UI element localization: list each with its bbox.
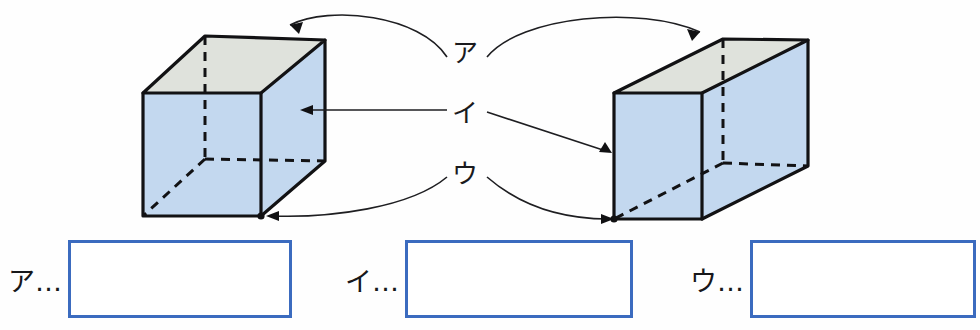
- figure-svg: [0, 0, 980, 240]
- answer-label-a: ア…: [8, 268, 65, 295]
- answer-box-i[interactable]: [405, 240, 633, 318]
- left-cube: [143, 36, 325, 220]
- answer-box-u[interactable]: [750, 240, 976, 318]
- callout-u-arrowhead-left: [266, 211, 279, 221]
- answer-row: ア… イ… ウ…: [0, 236, 980, 330]
- answer-slot-a: ア…: [8, 236, 292, 322]
- answer-label-i: イ…: [345, 268, 402, 295]
- answer-label-u: ウ…: [690, 268, 747, 295]
- left-cube-front-bottom-right-vertex: [257, 212, 264, 219]
- answer-slot-u: ウ…: [690, 236, 976, 322]
- callout-u-leader-right: [487, 177, 608, 219]
- right-prism: [610, 39, 808, 223]
- callout-u-arrowhead-right: [601, 214, 614, 224]
- right-prism-left-face: [614, 93, 702, 219]
- answer-slot-i: イ…: [345, 236, 633, 322]
- worksheet-page: ア イ ウ ア… イ… ウ…: [0, 0, 980, 330]
- callout-a-leader-right: [487, 17, 700, 57]
- callout-i-leader-right: [487, 112, 606, 151]
- left-cube-front-face: [143, 93, 261, 216]
- callout-a-leaders: [290, 15, 700, 57]
- callout-i-leaders: [300, 105, 612, 153]
- callout-u-leaders: [266, 177, 614, 224]
- callout-i-arrowhead-right: [599, 142, 612, 153]
- solids-figure: [0, 0, 980, 240]
- answer-box-a[interactable]: [68, 240, 292, 318]
